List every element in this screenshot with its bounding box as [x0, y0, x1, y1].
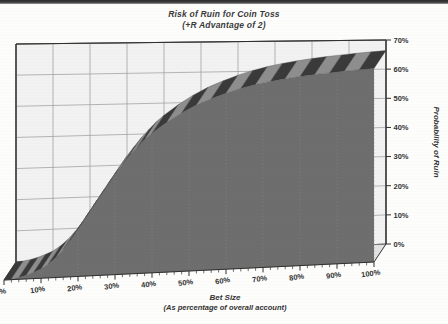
y-tick-label: 50%: [394, 94, 409, 103]
x-tick-label: 70%: [252, 273, 268, 284]
y-tick-label: 40%: [394, 123, 409, 132]
y-tick-label: 0%: [394, 240, 405, 249]
x-tick-label: 100%: [361, 268, 382, 280]
y-tick-label: 10%: [394, 211, 409, 220]
x-tick-label: 20%: [67, 282, 83, 293]
x-tick-label: 10%: [30, 284, 46, 295]
x-tick-label: 30%: [104, 281, 120, 292]
y-tick-label: 60%: [394, 65, 409, 74]
y-tick-label: 30%: [394, 152, 409, 161]
x-tick-label: 40%: [141, 279, 157, 290]
risk-of-ruin-area-chart: 0%10%20%30%40%50%60%70%80%90%100% 0%10%2…: [0, 0, 448, 324]
y-axis-ticks: [386, 40, 391, 244]
x-tick-label: 50%: [178, 277, 194, 288]
y-tick-label: 20%: [394, 182, 409, 191]
y-axis-title: Probability of Ruin: [432, 106, 441, 177]
x-tick-label: 0%: [0, 286, 7, 296]
y-tick-label: 70%: [394, 36, 409, 45]
x-axis-title: Bet Size: [209, 293, 241, 302]
x-axis-subtitle: (As percentage of overall account): [164, 303, 287, 312]
y-axis-tick-labels: 0%10%20%30%40%50%60%70%: [394, 36, 409, 249]
x-tick-label: 80%: [289, 272, 305, 283]
x-tick-label: 60%: [215, 275, 231, 286]
x-tick-label: 90%: [326, 270, 342, 281]
